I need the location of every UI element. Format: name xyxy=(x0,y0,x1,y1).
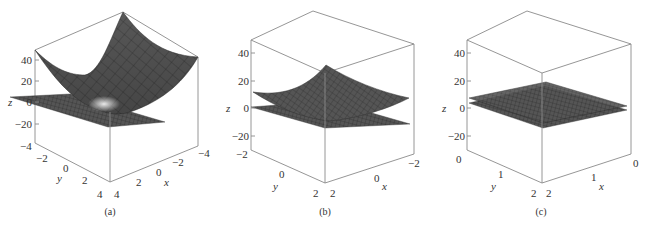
z-tick-label: 0 xyxy=(460,102,466,114)
panel-a-caption: (a) xyxy=(104,206,115,218)
panel-b: 40 20 0 −20 z −2 0 2 y 2 0 −2 x (b) xyxy=(225,11,420,218)
panel-c-caption: (c) xyxy=(535,206,546,218)
x-tick-label: −2 xyxy=(172,156,184,168)
y-tick-label: −4 xyxy=(20,140,32,152)
z-axis-label: z xyxy=(225,102,231,114)
panel-c-paraboloid-surface xyxy=(469,82,627,123)
z-tick-label: 20 xyxy=(238,75,250,87)
z-tick-label: 0 xyxy=(244,102,250,114)
panel-c: 40 20 0 −20 z 0 1 2 y 2 1 0 x (c) xyxy=(441,11,639,218)
z-tick-label: −20 xyxy=(15,118,33,130)
y-axis-label: y xyxy=(272,180,278,192)
x-axis-label: x xyxy=(598,180,604,192)
z-tick-label: 20 xyxy=(454,75,466,87)
panel-a-z-axis: 40 20 0 −20 z xyxy=(7,54,39,130)
x-tick-label: 2 xyxy=(136,176,142,188)
panel-a-x-axis: 4 2 0 −2 −4 x xyxy=(114,147,210,200)
panel-c-z-axis: 40 20 0 −20 z xyxy=(441,47,471,142)
z-tick-label: 40 xyxy=(21,54,33,66)
x-axis-label: x xyxy=(381,180,387,192)
z-tick-label: 20 xyxy=(21,75,33,87)
panel-c-y-axis: 0 1 2 y xyxy=(456,153,537,199)
panel-b-caption: (b) xyxy=(319,206,331,218)
z-tick-label: −20 xyxy=(232,130,250,142)
x-tick-label: 2 xyxy=(546,187,552,199)
z-tick-label: 0 xyxy=(27,96,33,108)
y-tick-label: 2 xyxy=(82,174,88,186)
panel-b-z-axis: 40 20 0 −20 z xyxy=(225,47,255,142)
x-tick-label: 1 xyxy=(591,171,597,183)
y-tick-label: 4 xyxy=(97,188,103,200)
x-tick-label: −4 xyxy=(198,147,210,159)
y-axis-label: y xyxy=(490,180,496,192)
x-tick-label: −2 xyxy=(408,157,420,169)
y-tick-label: 0 xyxy=(63,162,69,174)
z-tick-label: 40 xyxy=(454,47,466,59)
y-tick-label: 0 xyxy=(456,153,462,165)
x-tick-label: 2 xyxy=(330,187,336,199)
panel-c-x-axis: 2 1 0 x xyxy=(546,157,639,199)
y-axis-label: y xyxy=(56,172,62,184)
panel-a: 40 20 0 −20 z −4 −2 0 2 4 y 4 2 0 −2 −4 … xyxy=(7,12,210,218)
x-tick-label: 4 xyxy=(114,188,120,200)
z-axis-label: z xyxy=(7,96,13,108)
y-tick-label: 1 xyxy=(498,168,504,180)
panel-b-y-axis: −2 0 2 y xyxy=(236,148,319,199)
x-tick-label: 0 xyxy=(374,172,380,184)
panel-a-y-axis: −4 −2 0 2 4 y xyxy=(20,140,103,200)
y-tick-label: −2 xyxy=(236,148,248,160)
panel-b-x-axis: 2 0 −2 x xyxy=(330,157,420,199)
x-tick-label: 0 xyxy=(156,166,162,178)
z-tick-label: −20 xyxy=(448,130,466,142)
y-tick-label: 2 xyxy=(531,187,537,199)
y-tick-label: −2 xyxy=(36,152,48,164)
y-tick-label: 2 xyxy=(313,187,319,199)
z-tick-label: 40 xyxy=(238,47,250,59)
z-axis-label: z xyxy=(441,102,447,114)
figure-canvas: 40 20 0 −20 z −4 −2 0 2 4 y 4 2 0 −2 −4 … xyxy=(0,0,646,227)
panel-a-highlight xyxy=(88,96,120,112)
x-axis-label: x xyxy=(163,176,169,188)
y-tick-label: 0 xyxy=(279,168,285,180)
x-tick-label: 0 xyxy=(633,157,639,169)
